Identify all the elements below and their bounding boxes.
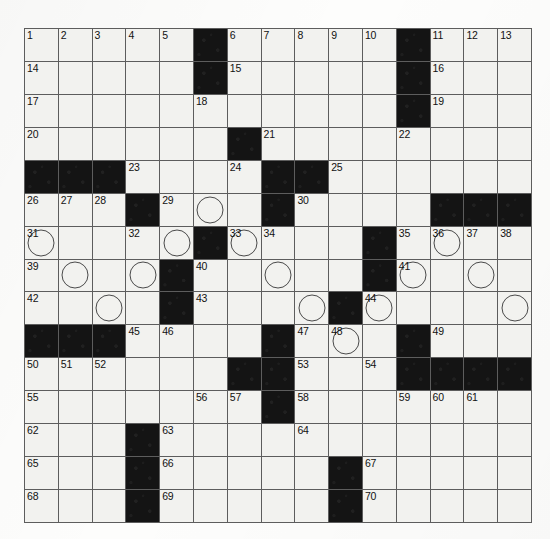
grid-cell[interactable] — [228, 490, 262, 523]
grid-cell[interactable] — [431, 292, 465, 325]
grid-cell[interactable] — [464, 490, 498, 523]
grid-cell[interactable] — [160, 358, 194, 391]
grid-cell[interactable] — [498, 424, 532, 457]
grid-cell[interactable] — [160, 391, 194, 424]
grid-cell[interactable] — [464, 161, 498, 194]
grid-cell[interactable] — [431, 457, 465, 490]
grid-cell[interactable] — [93, 424, 127, 457]
grid-cell[interactable]: 20 — [25, 128, 59, 161]
grid-cell[interactable] — [329, 391, 363, 424]
grid-cell[interactable]: 60 — [431, 391, 465, 424]
grid-cell[interactable]: 44 — [363, 292, 397, 325]
grid-cell[interactable]: 36 — [431, 227, 465, 260]
grid-cell[interactable] — [59, 62, 93, 95]
grid-cell[interactable]: 5 — [160, 29, 194, 62]
grid-cell[interactable] — [262, 95, 296, 128]
grid-cell[interactable] — [228, 95, 262, 128]
grid-cell[interactable] — [93, 62, 127, 95]
grid-cell[interactable]: 31 — [25, 227, 59, 260]
grid-cell[interactable]: 55 — [25, 391, 59, 424]
grid-cell[interactable] — [262, 490, 296, 523]
grid-cell[interactable] — [126, 260, 160, 293]
grid-cell[interactable] — [59, 490, 93, 523]
grid-cell[interactable] — [329, 62, 363, 95]
grid-cell[interactable]: 25 — [329, 161, 363, 194]
grid-cell[interactable] — [295, 457, 329, 490]
grid-cell[interactable]: 57 — [228, 391, 262, 424]
grid-cell[interactable]: 65 — [25, 457, 59, 490]
grid-cell[interactable] — [160, 95, 194, 128]
grid-cell[interactable]: 38 — [498, 227, 532, 260]
grid-cell[interactable]: 53 — [295, 358, 329, 391]
grid-cell[interactable] — [329, 424, 363, 457]
grid-cell[interactable] — [295, 227, 329, 260]
grid-cell[interactable] — [464, 260, 498, 293]
grid-cell[interactable] — [93, 128, 127, 161]
grid-cell[interactable] — [431, 424, 465, 457]
grid-cell[interactable]: 63 — [160, 424, 194, 457]
grid-cell[interactable]: 59 — [397, 391, 431, 424]
grid-cell[interactable] — [464, 62, 498, 95]
grid-cell[interactable]: 24 — [228, 161, 262, 194]
grid-cell[interactable] — [262, 62, 296, 95]
grid-cell[interactable]: 4 — [126, 29, 160, 62]
grid-cell[interactable]: 37 — [464, 227, 498, 260]
grid-cell[interactable] — [464, 292, 498, 325]
grid-cell[interactable] — [262, 260, 296, 293]
grid-cell[interactable]: 56 — [194, 391, 228, 424]
grid-cell[interactable] — [431, 161, 465, 194]
grid-cell[interactable]: 30 — [295, 194, 329, 227]
grid-cell[interactable] — [59, 95, 93, 128]
grid-cell[interactable]: 70 — [363, 490, 397, 523]
grid-cell[interactable] — [59, 128, 93, 161]
grid-cell[interactable]: 6 — [228, 29, 262, 62]
grid-cell[interactable]: 61 — [464, 391, 498, 424]
grid-cell[interactable] — [363, 391, 397, 424]
grid-cell[interactable] — [262, 424, 296, 457]
grid-cell[interactable] — [126, 128, 160, 161]
grid-cell[interactable] — [295, 292, 329, 325]
grid-cell[interactable] — [194, 325, 228, 358]
grid-cell[interactable] — [160, 62, 194, 95]
grid-cell[interactable]: 11 — [431, 29, 465, 62]
grid-cell[interactable] — [126, 358, 160, 391]
grid-cell[interactable] — [295, 95, 329, 128]
grid-cell[interactable]: 48 — [329, 325, 363, 358]
grid-cell[interactable] — [464, 457, 498, 490]
grid-cell[interactable]: 15 — [228, 62, 262, 95]
grid-cell[interactable] — [431, 260, 465, 293]
grid-cell[interactable] — [397, 457, 431, 490]
grid-cell[interactable]: 19 — [431, 95, 465, 128]
grid-cell[interactable]: 54 — [363, 358, 397, 391]
grid-cell[interactable] — [498, 260, 532, 293]
grid-cell[interactable] — [329, 194, 363, 227]
grid-cell[interactable] — [59, 391, 93, 424]
grid-cell[interactable]: 43 — [194, 292, 228, 325]
grid-cell[interactable] — [498, 161, 532, 194]
grid-cell[interactable]: 45 — [126, 325, 160, 358]
grid-cell[interactable] — [93, 95, 127, 128]
grid-cell[interactable]: 49 — [431, 325, 465, 358]
grid-cell[interactable] — [59, 424, 93, 457]
grid-cell[interactable]: 2 — [59, 29, 93, 62]
grid-cell[interactable] — [431, 128, 465, 161]
grid-cell[interactable]: 62 — [25, 424, 59, 457]
grid-cell[interactable] — [397, 292, 431, 325]
grid-cell[interactable] — [329, 260, 363, 293]
crossword-grid[interactable]: 1234567891011121314151617181920212223242… — [24, 28, 532, 523]
grid-cell[interactable] — [194, 490, 228, 523]
grid-cell[interactable] — [498, 391, 532, 424]
grid-cell[interactable] — [431, 490, 465, 523]
grid-cell[interactable] — [228, 424, 262, 457]
grid-cell[interactable] — [329, 227, 363, 260]
grid-cell[interactable] — [126, 292, 160, 325]
grid-cell[interactable] — [126, 95, 160, 128]
grid-cell[interactable] — [93, 457, 127, 490]
grid-cell[interactable] — [498, 325, 532, 358]
grid-cell[interactable] — [295, 260, 329, 293]
grid-cell[interactable]: 14 — [25, 62, 59, 95]
grid-cell[interactable]: 13 — [498, 29, 532, 62]
grid-cell[interactable] — [329, 128, 363, 161]
grid-cell[interactable]: 28 — [93, 194, 127, 227]
grid-cell[interactable]: 68 — [25, 490, 59, 523]
